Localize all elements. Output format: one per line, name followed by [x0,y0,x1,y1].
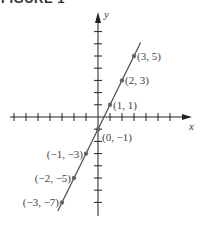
point-label: (1, 1) [113,99,137,112]
point-label: (−3, −7) [23,196,60,209]
data-point [108,103,112,107]
point-label: (−2, −5) [35,172,72,185]
data-point [72,176,76,180]
data-point [120,78,124,82]
data-point [60,200,64,204]
y-axis-arrow-icon [95,12,101,23]
point-label: (3, 5) [137,50,161,63]
point-label: (−1, −3) [47,148,84,161]
data-points: (3, 5)(2, 3)(1, 1)(0, −1)(−1, −3)(−2, −5… [23,50,161,209]
x-axis-label: x [188,120,194,132]
data-point [132,54,136,58]
axes [10,12,192,216]
line-plot: (3, 5)(2, 3)(1, 1)(0, −1)(−1, −3)(−2, −5… [0,0,201,225]
point-label: (0, −1) [102,131,132,144]
data-point [84,151,88,155]
data-point [96,127,100,131]
y-axis-label: y [103,8,109,20]
point-label: (2, 3) [125,74,149,87]
